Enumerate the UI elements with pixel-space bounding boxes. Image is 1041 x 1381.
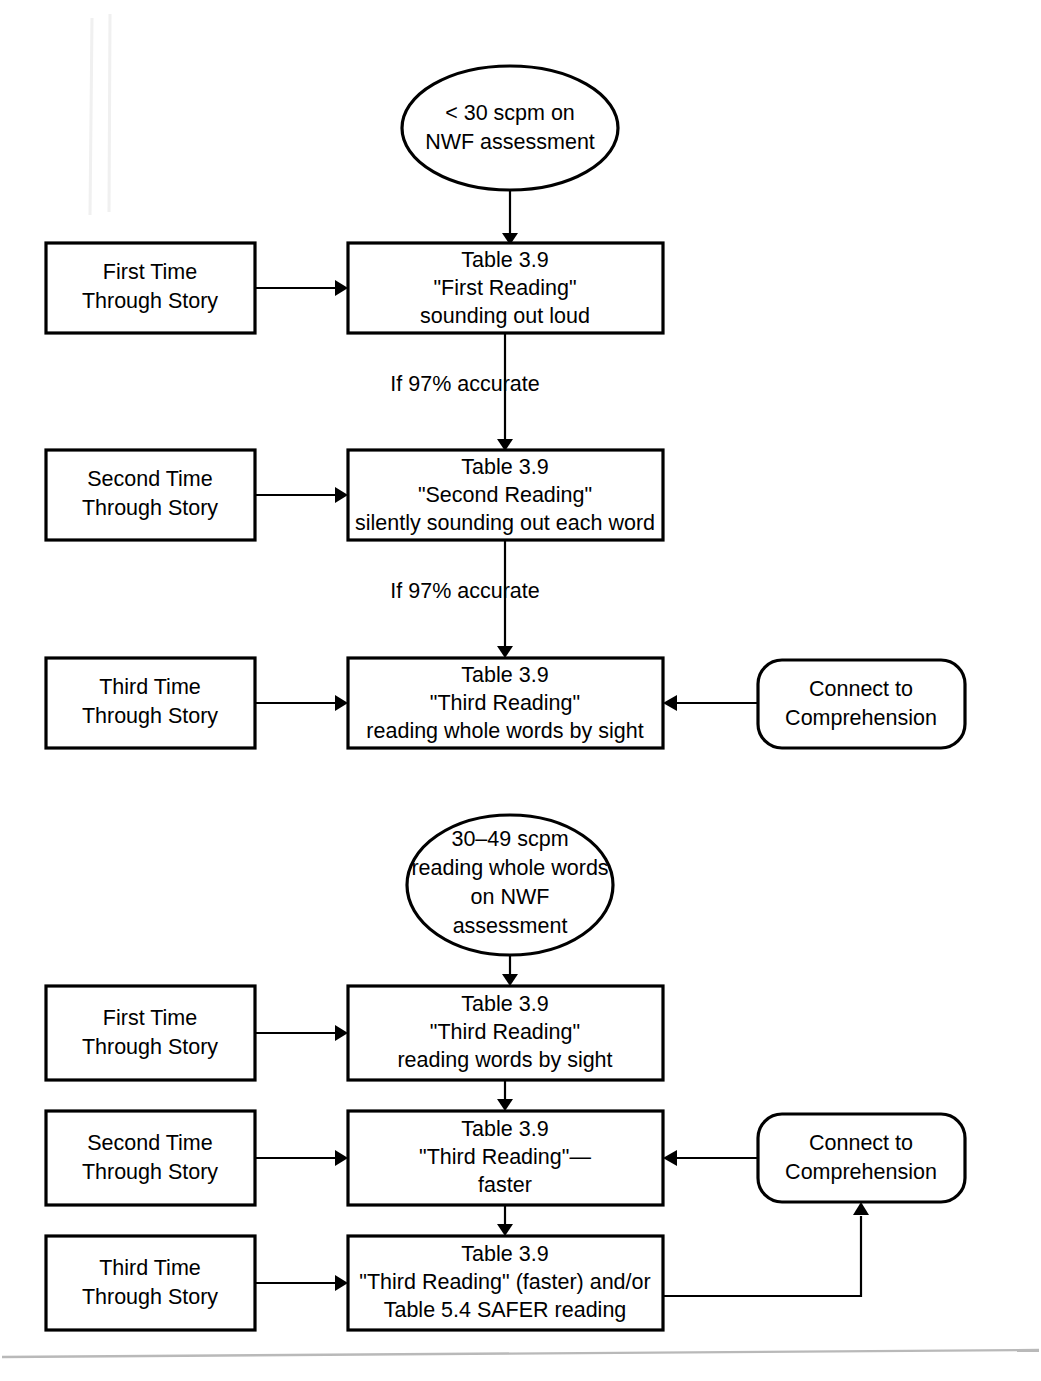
main-box-line-3: reading words by sight [397,1048,612,1072]
section-mid-score: 30–49 scpm reading whole words on NWF as… [46,815,965,1330]
arrowhead-right [335,1025,348,1041]
main-box-line-1: Table 3.9 [461,663,548,687]
entry-ellipse-line-1: 30–49 scpm [451,827,568,851]
main-box-line-2: "Third Reading"— [419,1145,591,1169]
left-box-line-2: Through Story [82,1160,218,1184]
left-box-line-1: First Time [103,1006,197,1030]
comprehension-node-low: Connect to Comprehension [758,660,965,748]
comprehension-line-1: Connect to [809,1131,913,1155]
arrowhead-down [497,1099,513,1111]
main-box-line-2: "Second Reading" [418,483,592,507]
main-box-line-3: silently sounding out each word [355,511,655,535]
left-box-line-1: Third Time [99,675,201,699]
entry-ellipse-line-3: on NWF [471,885,550,909]
arrowhead-down [497,646,513,658]
left-box-line-1: Second Time [87,467,212,491]
edge-label-accuracy-2: If 97% accurate [390,579,539,603]
arrowhead-down [502,974,518,986]
edge-left-to-main-row2 [255,487,348,503]
rounded-box-shape [758,660,965,748]
edge-comprehension-to-faster [663,1150,758,1166]
entry-ellipse-line-2: NWF assessment [425,130,595,154]
flowchart-canvas: < 30 scpm on NWF assessment First Time T… [0,0,1041,1381]
edge-safer-to-comprehension [663,1202,869,1296]
left-box-line-2: Through Story [82,1035,218,1059]
page-rule-line [2,1350,1039,1357]
left-box-line-1: First Time [103,260,197,284]
entry-ellipse-line-4: assessment [453,914,568,938]
scan-streak-left-b [109,14,110,212]
edge-entry-to-third-reading-mid [502,955,518,986]
row-third-time-low: Third Time Through Story Table 3.9 "Thir… [46,658,965,748]
edge-comprehension-to-third-reading [663,695,758,711]
entry-ellipse-line-1: < 30 scpm on [445,101,575,125]
main-box-line-3: sounding out loud [420,304,590,328]
left-box-line-2: Through Story [82,704,218,728]
ellipse-shape [402,66,618,190]
left-box-third-time [46,1236,255,1330]
edge-left-to-main-row3 [255,1275,348,1291]
main-box-line-3: Table 5.4 SAFER reading [384,1298,627,1322]
arrowhead-up [853,1202,869,1215]
section-low-score: < 30 scpm on NWF assessment First Time T… [46,66,965,748]
main-box-line-2: "Third Reading" (faster) and/or [359,1270,650,1294]
comprehension-node-mid: Connect to Comprehension [758,1114,965,1202]
row-second-time-low: Second Time Through Story Table 3.9 "Sec… [46,450,663,540]
edge-left-to-main-row3 [255,695,348,711]
left-box-line-1: Second Time [87,1131,212,1155]
main-box-line-1: Table 3.9 [461,455,548,479]
left-box-line-2: Through Story [82,496,218,520]
entry-ellipse-line-2: reading whole words [411,856,608,880]
row-first-time-mid: First Time Through Story Table 3.9 "Thir… [46,986,663,1080]
main-box-line-2: "Third Reading" [430,1020,580,1044]
edge-mid-row2-to-row3 [497,1205,513,1236]
main-box-line-1: Table 3.9 [461,1242,548,1266]
arrowhead-right [335,1275,348,1291]
edge-line [663,1216,861,1296]
main-box-line-2: "Third Reading" [430,691,580,715]
main-box-line-1: Table 3.9 [461,248,548,272]
flowchart-page: < 30 scpm on NWF assessment First Time T… [0,0,1041,1381]
left-box-line-2: Through Story [82,1285,218,1309]
main-box-line-2: "First Reading" [433,276,576,300]
edge-first-to-second-reading: If 97% accurate [390,333,539,451]
comprehension-line-1: Connect to [809,677,913,701]
row-second-time-mid: Second Time Through Story Table 3.9 "Thi… [46,1111,965,1205]
left-box-line-1: Third Time [99,1256,201,1280]
edge-label-accuracy-1: If 97% accurate [390,372,539,396]
left-box-line-2: Through Story [82,289,218,313]
main-box-line-1: Table 3.9 [461,992,548,1016]
main-box-line-1: Table 3.9 [461,1117,548,1141]
edge-left-to-main-row1 [255,1025,348,1041]
edge-second-to-third-reading: If 97% accurate [390,540,539,658]
arrowhead-right [335,487,348,503]
arrowhead-down [497,1224,513,1236]
edge-left-to-main-row2 [255,1150,348,1166]
edge-mid-row1-to-row2 [497,1080,513,1111]
left-box-first-time [46,986,255,1080]
row-first-time-low: First Time Through Story Table 3.9 "Firs… [46,243,663,333]
row-third-time-mid: Third Time Through Story Table 3.9 "Thir… [46,1236,663,1330]
edge-entry-to-first-reading [502,190,518,245]
left-box-second-time [46,1111,255,1205]
arrowhead-right [335,695,348,711]
arrowhead-left [663,1150,677,1166]
comprehension-line-2: Comprehension [785,1160,937,1184]
entry-ellipse-low-score: < 30 scpm on NWF assessment [402,66,618,190]
arrowhead-right [335,1150,348,1166]
main-box-line-3: faster [478,1173,532,1197]
arrowhead-left [663,695,677,711]
rounded-box-shape [758,1114,965,1202]
entry-ellipse-mid-score: 30–49 scpm reading whole words on NWF as… [407,815,613,955]
edge-left-to-main-row1 [255,280,348,296]
scan-streak-left-a [90,18,92,215]
main-box-line-3: reading whole words by sight [366,719,643,743]
comprehension-line-2: Comprehension [785,706,937,730]
arrowhead-right [335,280,348,296]
